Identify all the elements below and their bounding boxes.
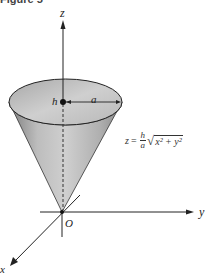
equation-equals: = <box>131 135 137 146</box>
cone-equation: z = h a √ x² + y² <box>125 131 183 150</box>
equation-fraction: h a <box>140 131 147 150</box>
origin-point <box>60 210 64 214</box>
y-axis-label: y <box>199 206 204 218</box>
figure-caption: Figure 5 <box>0 0 43 5</box>
radius-label: a <box>91 94 97 105</box>
fraction-denominator: a <box>141 141 146 150</box>
z-axis-label: z <box>60 7 65 19</box>
radical-icon: √ <box>147 133 154 149</box>
height-point <box>60 99 66 105</box>
equation-radicand: x² + y² <box>154 135 183 147</box>
x-axis-label: x <box>0 264 5 273</box>
x-axis <box>10 195 80 266</box>
z-axis <box>61 20 66 78</box>
height-label: h <box>52 96 58 107</box>
equation-lhs: z <box>125 135 129 146</box>
origin-label: O <box>65 218 73 229</box>
cone-figure: Figure 5 <box>0 0 208 273</box>
